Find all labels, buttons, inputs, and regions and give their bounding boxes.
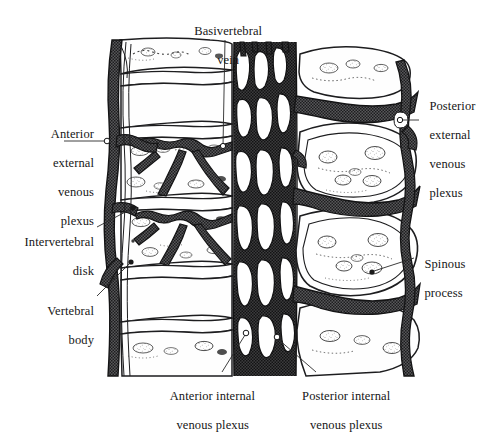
label-line: Spinous — [424, 257, 465, 271]
label-line: venous — [58, 185, 94, 199]
label-line: plexus — [429, 186, 462, 200]
label-line: Anterior internal — [170, 389, 255, 403]
label-spinous-process: Spinous process — [418, 243, 480, 301]
internal-vertebral-venous-plexus — [233, 42, 297, 376]
label-line: Posterior internal — [302, 389, 390, 403]
label-posterior-internal-venous-plexus: Posterior internal venous plexus — [278, 375, 408, 433]
label-posterior-external-venous-plexus: Posterior external venous plexus — [423, 85, 481, 200]
label-line: venous — [429, 157, 465, 171]
label-basivertebral-vein: Basivertebral vein — [164, 10, 286, 68]
label-line: body — [69, 333, 94, 347]
label-line: Anterior — [51, 127, 94, 141]
label-line: external — [53, 156, 94, 170]
label-line: venous plexus — [310, 418, 382, 432]
label-vertebral-body: Vertebral body — [14, 290, 94, 348]
label-line: Posterior — [429, 99, 475, 113]
label-line: Intervertebral — [25, 235, 94, 249]
label-line: external — [429, 128, 470, 142]
label-anterior-external-venous-plexus: Anterior external venous plexus — [8, 113, 94, 228]
label-line: venous plexus — [176, 418, 248, 432]
label-line: process — [424, 286, 462, 300]
label-line: Basivertebral — [194, 24, 262, 38]
label-intervertebral-disk: Intervertebral disk — [4, 221, 94, 279]
label-line: disk — [73, 264, 94, 278]
label-anterior-internal-venous-plexus: Anterior internal venous plexus — [147, 375, 272, 433]
label-line: Vertebral — [47, 304, 94, 318]
label-line: vein — [217, 53, 239, 67]
